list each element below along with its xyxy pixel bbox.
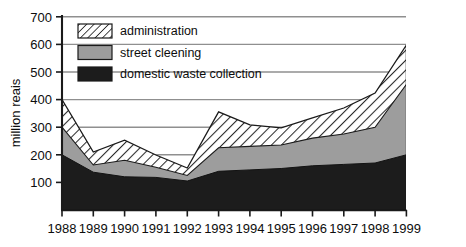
y-axis-title: million reais [8, 78, 23, 147]
chart-container: 700 600 500 400 300 200 100 1988 1989 19… [0, 0, 466, 247]
x-tick-label-1990: 1990 [110, 221, 139, 236]
x-tick-label-1993: 1993 [204, 221, 233, 236]
y-tick-label-500: 500 [30, 65, 52, 80]
legend-label-administration: administration [120, 24, 198, 38]
legend-label-domestic-waste-collection: domestic waste collection [120, 67, 262, 81]
y-tick-label-400: 400 [30, 92, 52, 107]
x-tick-label-1996: 1996 [298, 221, 327, 236]
stacked-area-chart: 700 600 500 400 300 200 100 1988 1989 19… [0, 0, 466, 247]
legend-label-street-cleening: street cleening [120, 46, 201, 60]
x-tick-label-1995: 1995 [267, 221, 296, 236]
y-tick-label-600: 600 [30, 37, 52, 52]
x-tick-label-1999: 1999 [392, 221, 421, 236]
x-tick-label-1994: 1994 [235, 221, 264, 236]
black-swatch [78, 67, 112, 81]
y-tick-label-700: 700 [30, 10, 52, 25]
x-tick-label-1988: 1988 [48, 221, 77, 236]
y-tick-label-200: 200 [30, 148, 52, 163]
x-tick-label-1997: 1997 [329, 221, 358, 236]
y-tick-label-300: 300 [30, 120, 52, 135]
x-tick-label-1991: 1991 [141, 221, 170, 236]
x-tick-label-1998: 1998 [361, 221, 390, 236]
x-tick-label-1989: 1989 [79, 221, 108, 236]
y-tick-label-100: 100 [30, 175, 52, 190]
x-tick-label-1992: 1992 [173, 221, 202, 236]
hatch-swatch [78, 24, 112, 38]
gray-swatch [78, 46, 112, 60]
